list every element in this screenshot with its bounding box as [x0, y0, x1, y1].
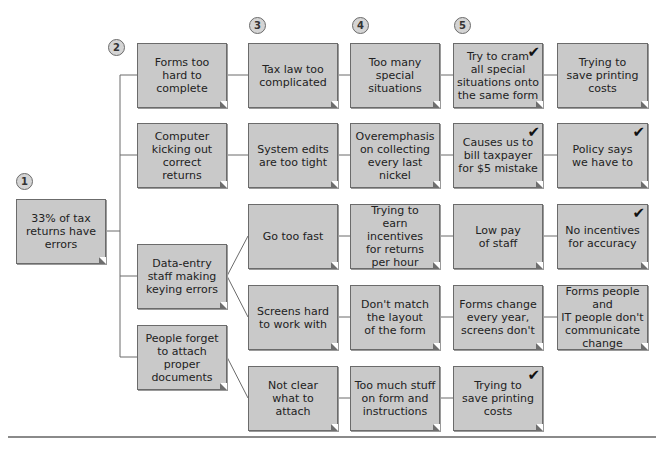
node-text: Forms too hard to complete [153, 56, 212, 95]
node-text: Trying to save printing costs [460, 379, 536, 418]
node-save-printing-2: Trying to save printing costs✔ [453, 366, 543, 431]
node-text: Don't match the layout of the form [359, 298, 431, 337]
node-text: Forms people and IT people don't communi… [558, 285, 647, 350]
page-curl-icon [331, 262, 338, 269]
page-curl-icon [331, 101, 338, 108]
node-overemphasis: Overemphasis on collecting every last ni… [350, 123, 440, 188]
node-screens-hard: Screens hard to work with [248, 285, 338, 350]
node-no-incentives: No incentives for accuracy✔ [557, 204, 648, 269]
node-text: System edits are too tight [255, 143, 330, 169]
node-text: Data-entry staff making keying errors [144, 257, 220, 296]
node-text: Too many special situations [366, 56, 424, 95]
node-text: Computer kicking out correct returns [150, 130, 214, 182]
page-curl-icon [536, 424, 543, 431]
node-text: No incentives for accuracy [563, 224, 642, 250]
node-special-situations: Too many special situations [350, 43, 440, 108]
page-curl-icon [433, 424, 440, 431]
step-marker-3: 3 [249, 17, 266, 34]
page-curl-icon [433, 181, 440, 188]
page-curl-icon [536, 262, 543, 269]
node-not-clear: Not clear what to attach [248, 366, 338, 431]
node-cram: Try to cram all special situations onto … [453, 43, 543, 108]
node-low-pay: Low pay of staff [453, 204, 543, 269]
step-marker-5: 5 [454, 17, 471, 34]
checkmark-icon: ✔ [527, 45, 540, 60]
node-earn-incentives: Trying to earn incentives for returns pe… [350, 204, 440, 269]
node-forms-change: Forms change every year, screens don't [453, 285, 543, 350]
checkmark-icon: ✔ [632, 206, 645, 221]
page-curl-icon [433, 343, 440, 350]
node-text: Forms change every year, screens don't [457, 298, 538, 337]
node-no-communicate: Forms people and IT people don't communi… [557, 285, 648, 350]
node-text: Trying to earn incentives for returns pe… [351, 204, 439, 269]
node-text: Go too fast [261, 230, 326, 243]
node-bill-taxpayer: Causes us to bill taxpayer for $5 mistak… [453, 123, 543, 188]
node-policy: Policy says we have to✔ [557, 123, 648, 188]
node-tax-law: Tax law too complicated [248, 43, 338, 108]
node-text: Tax law too complicated [257, 63, 328, 89]
node-dont-match: Don't match the layout of the form [350, 285, 440, 350]
checkmark-icon: ✔ [632, 125, 645, 140]
page-curl-icon [331, 343, 338, 350]
node-computer-kicking: Computer kicking out correct returns [137, 123, 227, 188]
checkmark-icon: ✔ [527, 125, 540, 140]
page-curl-icon [641, 101, 648, 108]
page-curl-icon [220, 181, 227, 188]
node-text: Policy says we have to [570, 143, 635, 169]
page-curl-icon [220, 302, 227, 309]
checkmark-icon: ✔ [527, 368, 540, 383]
node-data-entry: Data-entry staff making keying errors [137, 244, 227, 309]
node-text: 33% of tax returns have errors [24, 212, 98, 251]
page-curl-icon [220, 383, 227, 390]
node-forms-hard: Forms too hard to complete [137, 43, 227, 108]
step-marker-4: 4 [352, 17, 369, 34]
page-curl-icon [331, 181, 338, 188]
node-root: 33% of tax returns have errors [16, 199, 106, 264]
page-curl-icon [536, 181, 543, 188]
page-curl-icon [536, 101, 543, 108]
step-marker-1: 1 [16, 173, 33, 190]
step-marker-2: 2 [108, 39, 125, 56]
node-too-much-stuff: Too much stuff on form and instructions [350, 366, 440, 431]
page-curl-icon [641, 343, 648, 350]
node-text: Trying to save printing costs [564, 56, 640, 95]
node-text: People forget to attach proper documents [143, 332, 220, 384]
node-text: Not clear what to attach [266, 379, 320, 418]
page-curl-icon [433, 262, 440, 269]
node-people-forget: People forget to attach proper documents [137, 325, 227, 390]
page-curl-icon [641, 262, 648, 269]
node-text: Low pay of staff [473, 224, 522, 250]
node-text: Causes us to bill taxpayer for $5 mistak… [456, 136, 539, 175]
page-curl-icon [433, 101, 440, 108]
node-save-printing-1: Trying to save printing costs [557, 43, 648, 108]
page-curl-icon [331, 424, 338, 431]
page-curl-icon [641, 181, 648, 188]
page-curl-icon [220, 101, 227, 108]
page-curl-icon [99, 257, 106, 264]
bottom-rule [8, 436, 656, 438]
node-text: Overemphasis on collecting every last ni… [351, 130, 439, 182]
node-system-edits: System edits are too tight [248, 123, 338, 188]
node-go-fast: Go too fast [248, 204, 338, 269]
node-text: Screens hard to work with [255, 305, 331, 331]
page-curl-icon [536, 343, 543, 350]
node-text: Too much stuff on form and instructions [353, 379, 438, 418]
